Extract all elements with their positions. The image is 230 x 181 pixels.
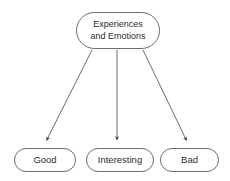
edge-root-to-bad <box>143 50 187 141</box>
node-label-interesting: Interesting <box>98 154 142 166</box>
node-label-bad: Bad <box>181 154 198 166</box>
node-bad[interactable]: Bad <box>160 148 219 172</box>
node-label-good: Good <box>33 154 56 166</box>
node-good[interactable]: Good <box>14 148 76 172</box>
node-interesting[interactable]: Interesting <box>86 148 154 172</box>
edge-root-to-good <box>47 50 93 141</box>
node-experiences-and-emotions[interactable]: Experiences and Emotions <box>76 12 160 49</box>
diagram-canvas: Experiences and Emotions Good Interestin… <box>0 0 230 181</box>
node-label-root: Experiences and Emotions <box>90 19 145 42</box>
